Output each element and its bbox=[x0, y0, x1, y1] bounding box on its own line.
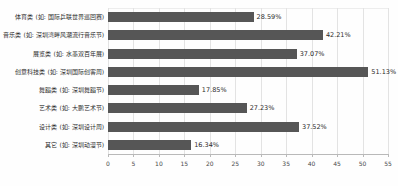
category-label: 其它 (如: 深圳动漫节) bbox=[45, 136, 104, 154]
bar-track: 42.21% bbox=[108, 26, 388, 44]
bar[interactable] bbox=[108, 85, 199, 95]
bar[interactable] bbox=[108, 49, 297, 59]
bar-value-label: 37.52% bbox=[299, 122, 327, 132]
bar[interactable] bbox=[108, 12, 254, 22]
tick-mark bbox=[286, 154, 287, 157]
x-tick-label: 15 bbox=[181, 160, 189, 167]
bar-value-label: 28.59% bbox=[254, 12, 282, 22]
tick-mark bbox=[388, 154, 389, 157]
bar-track: 16.34% bbox=[108, 136, 388, 154]
tick-mark bbox=[210, 154, 211, 157]
bar-value-label: 37.07% bbox=[297, 49, 325, 59]
x-tick-label: 50 bbox=[359, 160, 367, 167]
bar-track: 17.85% bbox=[108, 81, 388, 99]
tick-mark bbox=[235, 154, 236, 157]
category-label: 展览类 (如: 水墨双百年展) bbox=[33, 45, 104, 63]
x-tick-label: 55 bbox=[384, 160, 392, 167]
x-tick-label: 10 bbox=[155, 160, 163, 167]
tick-mark bbox=[337, 154, 338, 157]
tick-mark bbox=[312, 154, 313, 157]
tick-mark bbox=[184, 154, 185, 157]
bar-track: 27.23% bbox=[108, 99, 388, 117]
bar-track: 37.52% bbox=[108, 118, 388, 136]
tick-mark bbox=[363, 154, 364, 157]
bar[interactable] bbox=[108, 30, 323, 40]
bar-value-label: 51.13% bbox=[368, 67, 396, 77]
bar-value-label: 42.21% bbox=[323, 30, 351, 40]
x-tick-label: 45 bbox=[333, 160, 341, 167]
bar-row: 其它 (如: 深圳动漫节)16.34% bbox=[0, 136, 398, 154]
bar-row: 创意科技类 (如: 深圳国际创客周)51.13% bbox=[0, 63, 398, 81]
x-tick-label: 40 bbox=[308, 160, 316, 167]
bar-row: 展览类 (如: 水墨双百年展)37.07% bbox=[0, 45, 398, 63]
bar-value-label: 16.34% bbox=[191, 140, 219, 150]
category-label: 音乐类 (如: 深圳湾畔风潮流行音乐节) bbox=[3, 26, 104, 44]
tick-mark bbox=[261, 154, 262, 157]
bar[interactable] bbox=[108, 67, 368, 77]
bar-row: 舞蹈类 (如: 深圳舞蹈节)17.85% bbox=[0, 81, 398, 99]
category-label: 体育类 (如: 国际乒联世界巡回赛) bbox=[15, 8, 104, 26]
bar-row: 设计类 (如: 深圳设计周)37.52% bbox=[0, 118, 398, 136]
category-label: 艺术类 (如: 大鹏艺术节) bbox=[39, 99, 104, 117]
bar[interactable] bbox=[108, 122, 299, 132]
bar[interactable] bbox=[108, 140, 191, 150]
category-label: 设计类 (如: 深圳设计周) bbox=[39, 118, 104, 136]
x-tick-label: 0 bbox=[106, 160, 110, 167]
x-tick-label: 35 bbox=[282, 160, 290, 167]
tick-mark bbox=[133, 154, 134, 157]
bar-row: 音乐类 (如: 深圳湾畔风潮流行音乐节)42.21% bbox=[0, 26, 398, 44]
bar-row: 体育类 (如: 国际乒联世界巡回赛)28.59% bbox=[0, 8, 398, 26]
x-tick-label: 25 bbox=[231, 160, 239, 167]
bar[interactable] bbox=[108, 103, 247, 113]
bar-track: 28.59% bbox=[108, 8, 388, 26]
x-tick-label: 5 bbox=[132, 160, 136, 167]
bar-track: 37.07% bbox=[108, 45, 388, 63]
tick-mark bbox=[159, 154, 160, 157]
x-tick-label: 20 bbox=[206, 160, 214, 167]
bar-chart: 0510152025303540455055 体育类 (如: 国际乒联世界巡回赛… bbox=[0, 0, 398, 186]
x-axis-line bbox=[108, 154, 389, 155]
x-tick-label: 30 bbox=[257, 160, 265, 167]
bar-value-label: 27.23% bbox=[247, 103, 275, 113]
bar-value-label: 17.85% bbox=[199, 85, 227, 95]
category-label: 创意科技类 (如: 深圳国际创客周) bbox=[15, 63, 104, 81]
category-label: 舞蹈类 (如: 深圳舞蹈节) bbox=[39, 81, 104, 99]
tick-mark bbox=[108, 154, 109, 157]
bar-track: 51.13% bbox=[108, 63, 388, 81]
bar-row: 艺术类 (如: 大鹏艺术节)27.23% bbox=[0, 99, 398, 117]
